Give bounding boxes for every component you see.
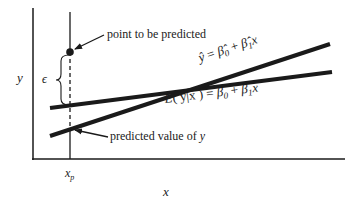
x-axis-label: x bbox=[162, 184, 169, 199]
predicted-label-arrow bbox=[75, 130, 108, 137]
xp-tick-label: xp bbox=[64, 166, 74, 182]
regression-diagram: y ϵ point to be predicted predicted valu… bbox=[0, 0, 359, 209]
y-axis-label: y bbox=[15, 70, 23, 85]
epsilon-brace bbox=[56, 55, 69, 105]
predicted-value-label: predicted value of y bbox=[110, 129, 206, 143]
point-to-be-predicted-label: point to be predicted bbox=[107, 27, 206, 41]
point-label-arrow bbox=[75, 35, 104, 49]
epsilon-label: ϵ bbox=[42, 72, 48, 86]
